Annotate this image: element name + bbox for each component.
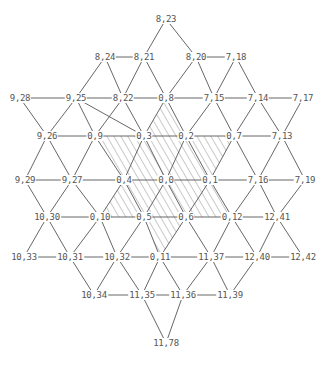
node-label: 9,28 [9,93,31,103]
node-label: 11,39 [216,290,244,300]
edge [214,57,236,98]
node-label: 9,26 [36,131,58,141]
node-label: 7,19 [294,175,316,185]
edge [144,57,166,98]
node-label: 0,1 [201,175,218,185]
edge [24,217,47,257]
node-label: 0,7 [225,131,242,141]
edge [186,217,211,257]
edge [282,136,305,180]
edge [142,295,166,343]
edge [25,136,47,180]
edge [47,217,70,257]
node-label: 10,30 [33,212,61,222]
node-label: 11,35 [128,290,156,300]
node-label: 7,17 [292,93,314,103]
node-label: 8,24 [94,52,116,62]
edge [100,217,117,257]
edge [70,217,100,257]
edge [277,217,303,257]
node-label: 0,3 [135,131,152,141]
node-label: 0,2 [177,131,194,141]
node-label: 7,13 [271,131,293,141]
node-label: 0,10 [89,212,111,222]
edge [166,57,196,98]
edge [257,217,277,257]
node-label: 0,4 [115,175,132,185]
node-label: 7,15 [203,93,225,103]
lattice-diagram: 8,238,248,218,207,189,289,258,220,87,157… [0,0,328,366]
node-label: 10,34 [80,290,108,300]
node-label: 12,41 [263,212,291,222]
node-label: 11,78 [152,338,180,348]
node-label: 12,40 [243,252,271,262]
edge [76,57,105,98]
node-label: 8,20 [185,52,207,62]
edge [236,57,258,98]
node-label: 0,8 [157,93,174,103]
node-label: 11,37 [197,252,225,262]
edge [234,136,258,180]
node-label: 7,16 [247,175,269,185]
node-label: 10,31 [56,252,84,262]
node-label: 8,22 [112,93,134,103]
node-label: 11,36 [169,290,197,300]
node-label: 9,29 [14,175,36,185]
node-label: 0,6 [177,212,194,222]
node-label: 8,23 [155,14,177,24]
edge [232,217,257,257]
edge [258,136,282,180]
node-label: 10,32 [103,252,131,262]
edge [105,57,123,98]
edge [211,217,232,257]
node-label: 0,9 [86,131,103,141]
node-label: 7,14 [247,93,269,103]
node-label: 9,25 [65,93,87,103]
edge [123,57,144,98]
node-label: 0,11 [149,252,171,262]
node-label: 9,27 [61,175,83,185]
node-label: 10,33 [10,252,38,262]
edge [166,295,183,343]
node-label: 0,0 [157,175,174,185]
node-label: 0,12 [221,212,243,222]
edge [196,57,214,98]
node-label: 12,42 [289,252,317,262]
node-label: 7,18 [225,52,247,62]
edge [117,217,144,257]
hatched-triangle [144,217,186,257]
node-label: 0,5 [135,212,152,222]
edge [47,136,72,180]
edge [72,136,95,180]
node-label: 8,21 [133,52,155,62]
